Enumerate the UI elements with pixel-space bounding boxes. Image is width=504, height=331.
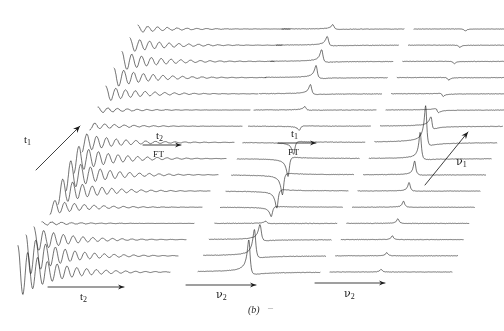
- figure-caption: (b): [248, 305, 260, 315]
- ft-t1-label: FT: [288, 148, 300, 157]
- ft-t2-label: FT: [153, 150, 165, 159]
- figure-caption-trailing-mark: –: [268, 303, 273, 313]
- t1-diagonal-axis-label: t1: [24, 134, 31, 147]
- v2-axis-label-right-symbol: ν: [344, 287, 351, 300]
- nmr-stacked-plot-canvas: [0, 0, 504, 331]
- v2-axis-label-middle-symbol: ν: [216, 288, 223, 301]
- nmr-figure-root: t2 ν2 ν2 t1 ν1 t2 FT t1 FT (b) –: [0, 0, 504, 331]
- t1-diagonal-label-subscript: 1: [27, 138, 31, 147]
- v1-diagonal-label-subscript: 1: [463, 160, 467, 169]
- ft-t1-variable-subscript: 1: [294, 132, 298, 141]
- v1-diagonal-label-symbol: ν: [456, 155, 463, 168]
- v2-axis-label-right-subscript: 2: [351, 292, 355, 301]
- ft-t2-variable-label: t2: [156, 130, 163, 143]
- t2-axis-label-subscript: 2: [83, 295, 87, 304]
- v2-axis-label-middle-subscript: 2: [223, 293, 227, 302]
- v2-axis-label-right: ν2: [344, 288, 355, 301]
- v2-axis-label-middle: ν2: [216, 289, 227, 302]
- t2-axis-label: t2: [80, 291, 87, 304]
- ft-t2-variable-subscript: 2: [159, 134, 163, 143]
- ft-t1-variable-label: t1: [291, 128, 298, 141]
- v1-diagonal-axis-label: ν1: [456, 156, 467, 169]
